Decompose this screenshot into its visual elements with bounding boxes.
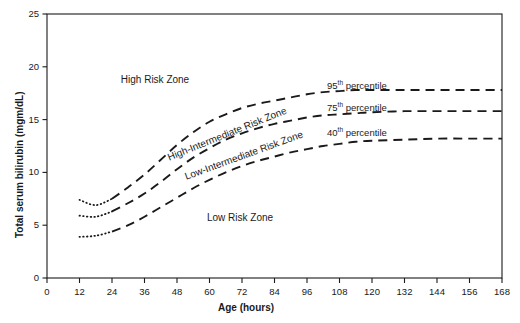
x-axis-tick-label: 120 xyxy=(356,286,388,297)
x-axis-tick-label: 84 xyxy=(259,286,291,297)
y-axis-tick-label: 15 xyxy=(9,114,39,125)
x-axis-tick-label: 168 xyxy=(486,286,518,297)
zone-label-high-risk: High Risk Zone xyxy=(121,74,189,85)
x-axis-tick-label: 132 xyxy=(389,286,421,297)
y-axis-tick-label: 20 xyxy=(9,61,39,72)
x-axis-tick-label: 144 xyxy=(421,286,453,297)
y-axis-tick-label: 5 xyxy=(9,219,39,230)
x-axis-tick-label: 0 xyxy=(31,286,63,297)
x-axis-tick-label: 24 xyxy=(96,286,128,297)
x-axis-tick-label: 36 xyxy=(129,286,161,297)
x-axis-tick-label: 48 xyxy=(161,286,193,297)
annotation-pct-95: 95th percentile xyxy=(327,79,387,91)
curve-95-dotted-start xyxy=(80,199,113,205)
y-axis-tick-label: 10 xyxy=(9,166,39,177)
x-axis-title: Age (hours) xyxy=(218,302,274,313)
curve-95-percentile xyxy=(112,90,502,199)
zone-label-low-risk: Low Risk Zone xyxy=(207,212,273,223)
annotation-pct-75-text: percentile xyxy=(343,102,387,113)
y-axis-tick-label: 25 xyxy=(9,8,39,19)
x-axis-tick-label: 108 xyxy=(324,286,356,297)
x-axis-tick-label: 12 xyxy=(64,286,96,297)
annotation-pct-40-number: 40 xyxy=(327,127,338,138)
x-axis-tick-label: 72 xyxy=(226,286,258,297)
curve-75-dotted-start xyxy=(80,211,113,216)
x-axis-tick-label: 96 xyxy=(291,286,323,297)
y-axis-tick-label: 0 xyxy=(9,272,39,283)
annotation-pct-95-number: 95 xyxy=(327,80,338,91)
x-axis-tick-label: 60 xyxy=(194,286,226,297)
x-axis-tick-label: 156 xyxy=(454,286,486,297)
nomogram-chart: Age (hours) Total serum bilirubin (mgm/d… xyxy=(0,0,520,323)
annotation-pct-75: 75th percentile xyxy=(327,101,387,113)
annotation-pct-40: 40th percentile xyxy=(327,126,387,138)
annotation-pct-40-text: percentile xyxy=(343,127,387,138)
annotation-pct-75-number: 75 xyxy=(327,102,338,113)
curve-40-dotted-start xyxy=(80,232,113,237)
chart-plot-area xyxy=(0,0,520,323)
annotation-pct-95-text: percentile xyxy=(343,80,387,91)
